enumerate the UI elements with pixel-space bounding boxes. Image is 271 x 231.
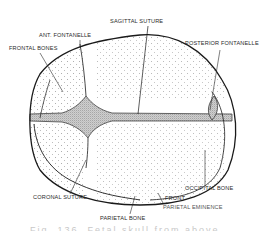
label-frontal-bones: FRONTAL BONES [9, 46, 58, 52]
label-frontal-eminence-partial: FRONT. [165, 196, 186, 202]
label-sagittal-suture: SAGITTAL SUTURE [110, 19, 163, 25]
label-parietal-eminence: PARIETAL EMINENCE [163, 205, 223, 211]
coronal-suture-lower [86, 138, 88, 168]
label-posterior-fontanelle: POSTERIOR FONTANELLE [185, 41, 259, 47]
skull-diagram: SAGITTAL SUTURE ANT. FONTANELLE FRONTAL … [0, 0, 271, 231]
frontal-bone-lower-region [25, 122, 85, 202]
label-coronal-suture: CORONAL SUTURE [33, 195, 87, 201]
label-parietal-bone: PARIETAL BONE [100, 216, 145, 222]
label-anterior-fontanelle: ANT. FONTANELLE [39, 33, 91, 39]
figure-caption: Fig. 136. Fetal skull from above [30, 226, 250, 231]
frontal-bone-region [25, 30, 83, 118]
label-occipital-bone: OCCIPITAL BONE [185, 186, 233, 192]
